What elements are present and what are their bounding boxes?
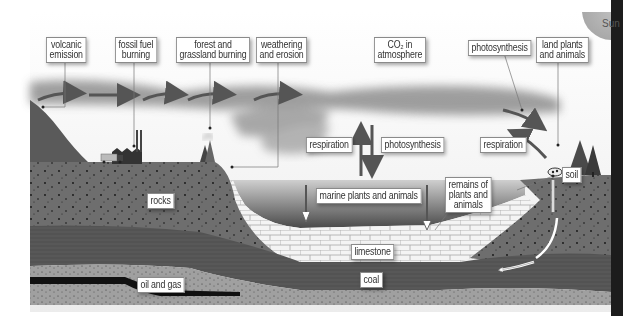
label-volcanic-emission: volcanic emission [46, 37, 86, 63]
label-respiration-land: respiration [480, 137, 526, 153]
label-rocks: rocks [147, 193, 174, 209]
label-photosynthesis-ocean: photosynthesis [381, 137, 444, 153]
label-weathering-erosion: weathering and erosion [256, 37, 307, 63]
label-fossil-fuel-burning: fossil fuel burning [115, 37, 157, 63]
label-limestone: limestone [351, 244, 394, 260]
label-land-plants-animals: land plants and animals [536, 37, 589, 63]
label-remains: remains of plants and animals [445, 177, 491, 213]
sun-label: Sun [602, 18, 620, 29]
label-soil: soil [562, 167, 582, 183]
label-forest-grassland-burning: forest and grassland burning [176, 37, 250, 63]
animal-icon [548, 168, 562, 176]
label-photosynthesis-land: photosynthesis [468, 40, 531, 56]
label-co2-atmosphere: CO₂ in atmosphere [374, 37, 426, 63]
page-edge-bar [611, 0, 623, 316]
label-oil-gas: oil and gas [137, 277, 185, 293]
label-respiration-ocean: respiration [306, 137, 352, 153]
label-marine-plants-animals: marine plants and animals [316, 188, 421, 204]
label-coal: coal [360, 272, 382, 288]
